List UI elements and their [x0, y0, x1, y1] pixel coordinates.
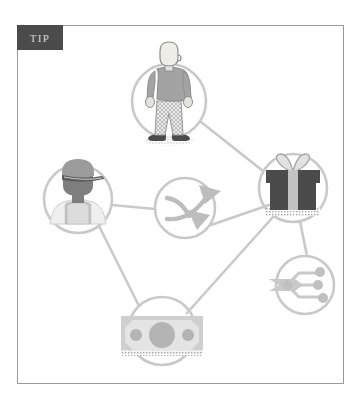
worker-with-cap-icon: [50, 159, 106, 224]
standing-person-icon: [144, 42, 194, 146]
node-standing-person[interactable]: [132, 42, 206, 146]
node-gift-box[interactable]: [259, 154, 327, 222]
banknote-icon: [121, 316, 203, 356]
node-shuffle-arrows[interactable]: [155, 178, 221, 238]
link-worker-to-shuffle: [112, 205, 155, 209]
tip-badge-label: TIP: [30, 32, 51, 44]
link-worker-to-money: [99, 226, 139, 306]
node-network-share[interactable]: [269, 256, 334, 314]
link-shuffle-to-gift: [211, 205, 269, 225]
gift-box-icon: [266, 154, 320, 216]
node-link-diagram: [17, 25, 344, 384]
link-person-to-gift: [201, 122, 263, 171]
link-gift-to-network: [300, 221, 307, 256]
node-worker-with-cap[interactable]: [44, 159, 112, 233]
tip-illustration-page: TIP: [0, 0, 362, 402]
link-money-to-gift: [187, 217, 273, 313]
tip-badge: TIP: [17, 25, 63, 50]
